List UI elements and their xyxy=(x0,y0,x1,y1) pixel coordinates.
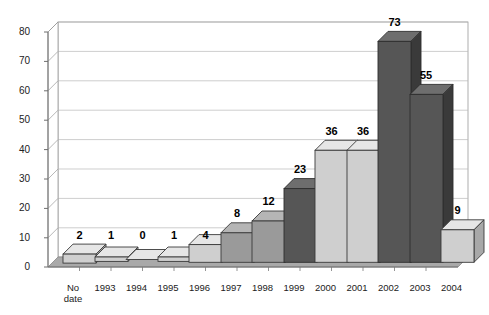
bar-value-label: 8 xyxy=(215,207,259,219)
bar-1996[interactable] xyxy=(189,0,222,315)
bar-front xyxy=(410,94,443,262)
bar-2001[interactable] xyxy=(347,0,380,315)
bar-1995[interactable] xyxy=(158,0,191,315)
bar-value-label: 36 xyxy=(341,125,385,137)
bar-series xyxy=(0,0,489,315)
bar-value-label: 73 xyxy=(373,16,417,28)
bar-1997[interactable] xyxy=(221,0,254,315)
x-axis-labels: Nodate 1993 1994 1995 1996 1997 1998 199… xyxy=(0,282,489,315)
bar-1998[interactable] xyxy=(252,0,285,315)
bar-front xyxy=(189,245,222,263)
bar-front xyxy=(95,257,128,261)
bar-value-label: 55 xyxy=(404,69,448,81)
bar-2004[interactable] xyxy=(441,0,474,315)
bar-1999[interactable] xyxy=(284,0,317,315)
bar-1994[interactable] xyxy=(126,0,159,315)
bar-front xyxy=(441,230,474,262)
bar-front xyxy=(158,257,191,261)
bar-value-label: 9 xyxy=(436,204,480,216)
plot-area: 80 70 60 50 40 30 20 10 0 xyxy=(0,0,489,315)
bar-value-label: 23 xyxy=(278,163,322,175)
bar-1993[interactable] xyxy=(95,0,128,315)
bar-no-date[interactable] xyxy=(63,0,96,315)
chart-root: INCREASE IN RESEARCH ON TRAFFICKING xyxy=(0,0,489,315)
bar-front xyxy=(347,150,380,262)
bar-2000[interactable] xyxy=(315,0,348,315)
bar-value-label: 12 xyxy=(247,195,291,207)
bar-front xyxy=(252,221,285,262)
bar-2003[interactable] xyxy=(410,0,443,315)
x-tick-label-2004: 2004 xyxy=(430,282,474,293)
bar-front xyxy=(63,254,96,263)
bar-value-label: 4 xyxy=(184,229,228,241)
bar-2002[interactable] xyxy=(378,0,411,315)
